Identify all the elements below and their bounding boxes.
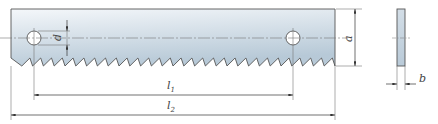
label-l1: l1 [167, 79, 175, 94]
label-d: d [51, 34, 64, 41]
dimension-a: a [336, 9, 362, 66]
saw-blade-drawing: d a l1 l2 b [0, 0, 438, 124]
label-l2: l2 [167, 99, 176, 114]
label-a: a [342, 35, 355, 42]
label-b: b [419, 72, 426, 85]
blade-side-view: b [386, 9, 426, 90]
dimension-l1: l1 [34, 79, 293, 95]
